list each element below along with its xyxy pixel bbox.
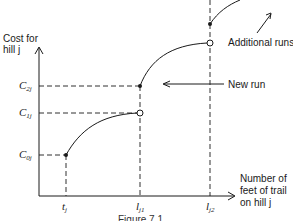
y-axis-label-line2: hill j [3, 44, 20, 55]
new-run-label: New run [228, 79, 265, 90]
additional-runs-arrow [257, 14, 271, 33]
tick-c2j: C2j [19, 80, 32, 95]
curve-additional-runs [210, 0, 240, 24]
y-axis-label-line1: Cost for [3, 33, 38, 44]
open-point-c1 [137, 110, 143, 116]
tick-c0j: C0j [19, 149, 32, 164]
curve-first-run [66, 113, 137, 155]
filled-point-c0 [64, 153, 68, 157]
figure-caption: Figure 7.1 [118, 214, 163, 221]
additional-runs-label: Additional runs [228, 37, 293, 48]
tick-tj: tj [62, 201, 67, 216]
curve-new-run [140, 43, 207, 86]
tick-c1j: C1j [19, 107, 32, 122]
open-point-l2 [207, 40, 213, 46]
tick-lj2: lj2 [206, 201, 215, 216]
x-axis-label-line2: feet of trail [240, 185, 287, 196]
filled-point-l2 [208, 22, 212, 26]
x-axis-label-line3: on hill j [240, 197, 271, 208]
x-axis-label-line1: Number of [240, 173, 287, 184]
filled-point-c2 [138, 84, 142, 88]
